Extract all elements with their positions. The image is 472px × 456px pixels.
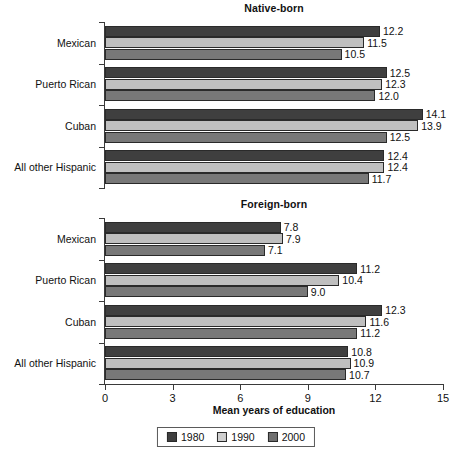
legend-item-2000[interactable]: 2000: [268, 431, 305, 443]
bar-group: Mexican7.87.97.1: [105, 222, 443, 256]
x-axis-tick-label: 0: [102, 392, 108, 404]
bar-row: 13.9: [105, 120, 443, 131]
bar-1990[interactable]: [105, 162, 384, 173]
category-label: Puerto Rican: [35, 274, 96, 286]
bar-1980[interactable]: [105, 305, 382, 316]
bar-1990[interactable]: [105, 120, 418, 131]
category-axis-tick: [99, 105, 105, 106]
bar-row: 10.8: [105, 346, 443, 357]
bar-row: 11.6: [105, 316, 443, 327]
category-label: Cuban: [65, 120, 96, 132]
category-axis-tick: [99, 343, 105, 344]
bar-2000[interactable]: [105, 286, 308, 297]
bar-row: 10.9: [105, 358, 443, 369]
bar-value-label: 11.6: [366, 316, 389, 328]
bar-value-label: 12.5: [387, 67, 410, 79]
bar-1980[interactable]: [105, 346, 348, 357]
bar-row: 12.2: [105, 26, 443, 37]
bar-group: Cuban14.113.912.5: [105, 109, 443, 143]
category-axis-tick: [99, 218, 105, 219]
bar-value-label: 7.1: [265, 244, 283, 256]
bar-1990[interactable]: [105, 79, 382, 90]
x-axis-tick: [443, 384, 444, 390]
category-label: All other Hispanic: [14, 161, 96, 173]
bar-value-label: 7.9: [283, 233, 301, 245]
bar-value-label: 10.9: [351, 357, 374, 369]
chart-legend: 198019902000: [157, 427, 315, 447]
category-axis-tick: [99, 147, 105, 148]
bar-group: Cuban12.311.611.2: [105, 305, 443, 339]
bar-value-label: 12.4: [384, 161, 407, 173]
bar-row: 9.0: [105, 286, 443, 297]
bar-2000[interactable]: [105, 245, 265, 256]
x-axis-tick: [105, 384, 106, 390]
bar-value-label: 10.7: [346, 369, 369, 381]
category-axis-tick: [99, 301, 105, 302]
legend-item-1980[interactable]: 1980: [167, 431, 204, 443]
bar-2000[interactable]: [105, 49, 342, 60]
bar-1980[interactable]: [105, 222, 281, 233]
bar-row: 7.8: [105, 222, 443, 233]
bar-row: 12.4: [105, 150, 443, 161]
bar-value-label: 10.5: [342, 48, 365, 60]
x-axis-tick-label: 3: [170, 392, 176, 404]
panel-title-native-born: Native-born: [105, 2, 443, 14]
plot-panel-native-born: Mexican12.211.510.5Puerto Rican12.512.31…: [105, 22, 443, 188]
category-label: All other Hispanic: [14, 357, 96, 369]
x-axis-tick: [375, 384, 376, 390]
bar-1980[interactable]: [105, 150, 384, 161]
bar-value-label: 14.1: [423, 108, 446, 120]
plot-panel-foreign-born: Mexican7.87.97.1Puerto Rican11.210.49.0C…: [105, 218, 443, 384]
bar-group: All other Hispanic10.810.910.7: [105, 346, 443, 380]
bar-1990[interactable]: [105, 316, 366, 327]
x-axis-tick: [173, 384, 174, 390]
bar-1980[interactable]: [105, 263, 357, 274]
bar-1980[interactable]: [105, 67, 387, 78]
bar-value-label: 12.0: [375, 90, 398, 102]
category-label: Mexican: [57, 37, 96, 49]
bar-row: 12.4: [105, 162, 443, 173]
bar-1980[interactable]: [105, 26, 380, 37]
bar-row: 10.7: [105, 369, 443, 380]
bar-row: 7.9: [105, 233, 443, 244]
bar-1980[interactable]: [105, 109, 423, 120]
x-axis-tick-label: 12: [369, 392, 381, 404]
bar-row: 7.1: [105, 245, 443, 256]
bar-2000[interactable]: [105, 328, 357, 339]
legend-item-1990[interactable]: 1990: [217, 431, 254, 443]
bar-1990[interactable]: [105, 233, 283, 244]
category-label: Puerto Rican: [35, 78, 96, 90]
legend-swatch-icon: [217, 432, 227, 442]
legend-label: 1990: [231, 431, 254, 443]
bar-row: 12.0: [105, 90, 443, 101]
x-axis-tick: [240, 384, 241, 390]
x-axis-tick-label: 6: [237, 392, 243, 404]
bar-row: 11.5: [105, 37, 443, 48]
legend-label: 1980: [181, 431, 204, 443]
bar-group: Mexican12.211.510.5: [105, 26, 443, 60]
legend-label: 2000: [282, 431, 305, 443]
category-label: Mexican: [57, 233, 96, 245]
bar-2000[interactable]: [105, 132, 387, 143]
bar-row: 12.3: [105, 79, 443, 90]
bar-1990[interactable]: [105, 37, 364, 48]
bar-value-label: 11.2: [357, 263, 380, 275]
bar-value-label: 9.0: [308, 286, 326, 298]
bar-2000[interactable]: [105, 173, 369, 184]
bar-value-label: 10.4: [339, 274, 362, 286]
bar-2000[interactable]: [105, 369, 346, 380]
category-label: Cuban: [65, 316, 96, 328]
bar-value-label: 11.7: [369, 173, 392, 185]
category-axis-tick: [99, 188, 105, 189]
bar-1990[interactable]: [105, 358, 351, 369]
bar-2000[interactable]: [105, 90, 375, 101]
legend-swatch-icon: [268, 432, 278, 442]
bar-row: 10.4: [105, 275, 443, 286]
bar-row: 12.3: [105, 305, 443, 316]
bar-1990[interactable]: [105, 275, 339, 286]
x-axis-label: Mean years of education: [105, 404, 443, 416]
bar-value-label: 12.2: [380, 25, 403, 37]
bar-row: 11.2: [105, 263, 443, 274]
bar-value-label: 11.2: [357, 327, 380, 339]
bar-value-label: 12.5: [387, 131, 410, 143]
